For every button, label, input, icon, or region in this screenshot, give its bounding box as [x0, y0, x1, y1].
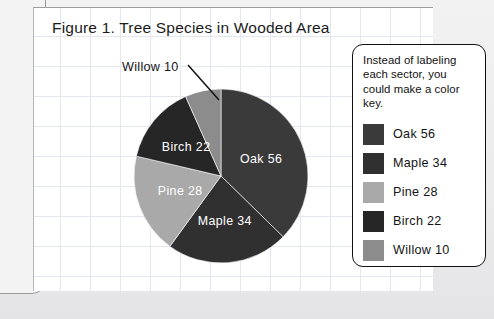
color-key-callout-box: Instead of labeling each sector, you cou…	[352, 44, 486, 267]
legend-label-pine: Pine 28	[393, 185, 438, 199]
legend-label-maple: Maple 34	[393, 156, 447, 170]
legend-row: Oak 56	[363, 121, 476, 148]
pie-slice-label-maple: Maple 34	[198, 214, 252, 228]
legend-swatch-willow	[363, 240, 384, 261]
legend-swatch-oak	[363, 124, 384, 145]
legend-row: Willow 10	[363, 237, 476, 264]
legend-label-oak: Oak 56	[393, 127, 435, 141]
legend-label-willow: Willow 10	[393, 243, 450, 257]
legend-row: Birch 22	[363, 208, 476, 235]
legend-swatch-maple	[363, 153, 384, 174]
pie-slice-label-pine: Pine 28	[158, 184, 203, 198]
pie-chart-svg: Oak 56Maple 34Pine 28Birch 22	[133, 88, 309, 264]
willow-annotation-label: Willow 10	[122, 60, 179, 74]
pie-slice-label-oak: Oak 56	[240, 152, 282, 166]
legend-swatch-birch	[363, 211, 384, 232]
pie-chart: Oak 56Maple 34Pine 28Birch 22	[133, 88, 309, 264]
page-title: Figure 1. Tree Species in Wooded Area	[52, 19, 330, 37]
legend-row: Maple 34	[363, 150, 476, 177]
pie-slice-label-birch: Birch 22	[162, 140, 211, 154]
legend-row: Pine 28	[363, 179, 476, 206]
pie-slice-group	[134, 89, 308, 263]
callout-note-text: Instead of labeling each sector, you cou…	[363, 53, 476, 111]
legend-swatch-pine	[363, 182, 384, 203]
legend-label-birch: Birch 22	[393, 214, 442, 228]
color-key-legend: Oak 56Maple 34Pine 28Birch 22Willow 10	[363, 121, 476, 264]
